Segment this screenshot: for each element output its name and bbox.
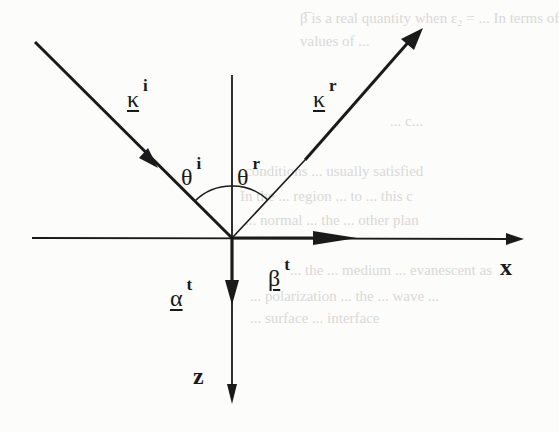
alpha-t-vector [225,238,239,305]
theta-i-symbol: θ [181,164,193,190]
theta-r-superscript: r [253,154,261,173]
label-beta-t: βt [268,266,290,290]
reflected-ray [232,28,423,238]
label-alpha-t: αt [170,286,192,310]
label-theta-i: θi [181,165,201,189]
alpha-t-superscript: t [187,275,193,294]
kappa-i-symbol: κ [127,86,139,112]
kappa-r-symbol: κ [313,86,325,112]
theta-i-superscript: i [197,154,202,173]
alpha-t-arrowhead [225,280,239,305]
label-kappa-r: κr [313,87,337,111]
kappa-r-superscript: r [329,76,337,95]
beta-t-superscript: t [284,255,290,274]
alpha-t-symbol: α [170,285,183,311]
z-axis-label: z [193,364,204,388]
incident-ray [35,42,232,238]
label-theta-r: θr [237,165,260,189]
incident-arrowhead [139,148,158,168]
beta-t-arrowhead [313,231,357,245]
beta-t-vector [232,231,357,245]
z-axis-arrowhead [227,384,237,404]
x-axis-label: x [500,255,512,279]
beta-t-symbol: β [268,265,280,291]
label-kappa-i: κi [127,87,148,111]
kappa-i-superscript: i [143,76,148,95]
theta-r-symbol: θ [237,164,249,190]
x-axis-arrowhead [506,233,524,245]
